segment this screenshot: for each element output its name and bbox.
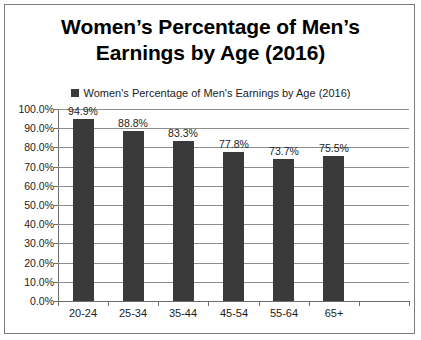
x-axis-labels: 20-2425-3435-4445-5455-6465+ (58, 5, 409, 335)
y-axis-tick-label: 0.0% (8, 296, 54, 306)
y-axis-tick-label: 80.0% (8, 142, 54, 152)
x-axis-category-label: 65+ (304, 307, 364, 319)
chart-container: Women’s Percentage of Men’s Earnings by … (4, 4, 415, 334)
y-axis-tick-label: 40.0% (8, 219, 54, 229)
y-axis-tick-label: 60.0% (8, 181, 54, 191)
x-axis-tick (409, 301, 410, 306)
y-axis-tick-label: 70.0% (8, 162, 54, 172)
y-axis-tick-label: 90.0% (8, 123, 54, 133)
y-axis-tick-label: 30.0% (8, 238, 54, 248)
y-axis-tick-label: 100.0% (8, 104, 54, 114)
y-axis-tick-label: 50.0% (8, 200, 54, 210)
y-axis-tick-label: 20.0% (8, 258, 54, 268)
y-axis-tick-label: 10.0% (8, 277, 54, 287)
y-axis-labels: 0.0%10.0%20.0%30.0%40.0%50.0%60.0%70.0%8… (5, 109, 54, 301)
